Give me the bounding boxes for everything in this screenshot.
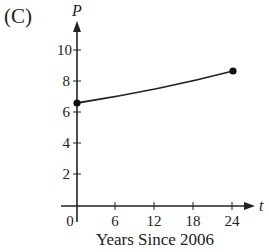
y-tick-label: 8 — [63, 73, 71, 89]
x-axis-arrow-icon — [244, 202, 255, 210]
x-tick-label: 24 — [225, 213, 241, 229]
panel-label: (C) — [4, 4, 32, 28]
data-curve — [77, 71, 233, 103]
y-tick-label: 6 — [63, 104, 71, 120]
chart-container: (C) P t 2 4 6 8 10 0 6 12 18 — [0, 0, 269, 252]
x-tick-label: 6 — [111, 213, 119, 229]
y-axis-arrow-icon — [73, 21, 81, 32]
x-tick-label: 0 — [66, 213, 74, 229]
start-point-dot — [73, 99, 80, 106]
x-tick-label: 18 — [186, 213, 201, 229]
y-tick-label: 10 — [57, 42, 72, 58]
end-point-dot — [229, 67, 236, 74]
x-axis-title: Years Since 2006 — [96, 230, 214, 249]
y-tick-label: 2 — [63, 166, 71, 182]
x-tick-label: 12 — [147, 213, 162, 229]
y-tick-label: 4 — [63, 135, 71, 151]
x-axis-variable: t — [259, 197, 264, 214]
y-axis-variable: P — [71, 2, 82, 19]
